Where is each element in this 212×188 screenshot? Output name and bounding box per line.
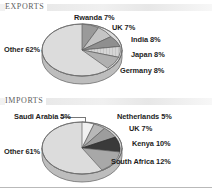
imports-label-other: Other 61% (4, 148, 40, 156)
exports-section-header: EXPORTS (0, 0, 212, 14)
imports-label-saudi-arabia: Saudi Arabia 5% (14, 113, 71, 121)
imports-chart-stage: Other 61% Saudi Arabia 5% Netherlands 5%… (0, 108, 212, 188)
exports-label-germany: Germany 8% (120, 67, 164, 75)
figure-frame: EXPORTS (0, 0, 212, 188)
imports-label-south-africa: South Africa 12% (111, 158, 171, 166)
imports-label-kenya: Kenya 10% (132, 140, 171, 148)
exports-label-rwanda: Rwanda 7% (74, 14, 115, 22)
exports-label-india: India 8% (131, 36, 161, 44)
panel-imports: IMPORTS (0, 94, 212, 188)
imports-label-netherlands: Netherlands 5% (117, 113, 172, 121)
saudi-arabia-leader-drop (85, 117, 86, 123)
imports-pie-svg (40, 114, 124, 186)
imports-section-header: IMPORTS (0, 94, 212, 108)
exports-chart-stage: Other 62% Rwanda 7% UK 7% India 8% Japan… (0, 14, 212, 94)
imports-title: IMPORTS (5, 96, 46, 106)
exports-title: EXPORTS (5, 2, 47, 12)
exports-label-japan: Japan 8% (131, 51, 165, 59)
imports-pie (40, 114, 124, 186)
imports-label-uk: UK 7% (129, 125, 152, 133)
exports-label-uk: UK 7% (112, 24, 135, 32)
exports-label-other: Other 62% (4, 46, 40, 54)
panel-exports: EXPORTS (0, 0, 212, 94)
